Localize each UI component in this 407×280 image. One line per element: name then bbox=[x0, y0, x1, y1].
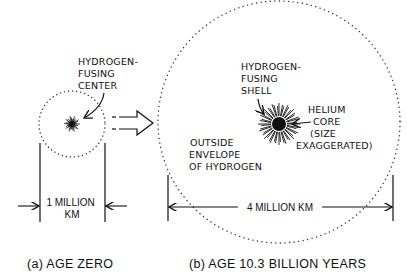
dimension-label-b: 4 MILLION KM bbox=[247, 202, 313, 213]
pointer-arrow-center bbox=[84, 93, 104, 118]
dimension-label-a: 1 MILLION KM bbox=[46, 197, 97, 220]
label-hydrogen-fusing-center: HYDROGEN- FUSING CENTER bbox=[78, 56, 141, 91]
helium-core bbox=[272, 117, 286, 131]
transition-arrow-icon bbox=[112, 111, 153, 135]
burst-ray bbox=[280, 132, 281, 142]
label-helium-core: HELIUM CORE (SIZE EXAGGERATED) bbox=[296, 104, 373, 151]
panel-b: HYDROGEN- FUSING SHELL HELIUM CORE (SIZE… bbox=[158, 1, 400, 271]
panel-a: HYDROGEN- FUSING CENTER 1 MILLION KM (a)… bbox=[18, 56, 141, 271]
fusing-center-dot bbox=[69, 121, 75, 127]
burst-ray bbox=[261, 125, 271, 126]
label-hydrogen-fusing-shell: HYDROGEN- FUSING SHELL bbox=[241, 61, 304, 96]
pointer-arrow-shell bbox=[258, 99, 264, 114]
caption-b: (b) AGE 10.3 BILLION YEARS bbox=[189, 257, 366, 271]
label-outside-envelope: OUTSIDE ENVELOPE OF HYDROGEN bbox=[189, 137, 262, 172]
star-evolution-diagram: HYDROGEN- FUSING CENTER 1 MILLION KM (a)… bbox=[0, 0, 407, 280]
burst-ray bbox=[278, 106, 279, 116]
caption-a: (a) AGE ZERO bbox=[27, 257, 113, 271]
